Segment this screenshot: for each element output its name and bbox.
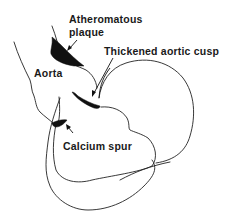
atheromatous-plaque-shape bbox=[51, 37, 84, 66]
calcium-spur-shape bbox=[52, 120, 67, 127]
label-calcium-spur: Calcium spur bbox=[63, 140, 132, 152]
mitral-line bbox=[120, 162, 170, 180]
label-atheromatous-line1: Atheromatous bbox=[69, 13, 143, 25]
cusp-arrow-line bbox=[94, 58, 113, 93]
ventricle-lower-outline bbox=[46, 98, 155, 210]
aortic-valve-diagram: Atheromatous plaque Thickened aortic cus… bbox=[0, 0, 230, 213]
label-thickened-aortic-cusp: Thickened aortic cusp bbox=[104, 45, 219, 57]
label-aorta: Aorta bbox=[34, 67, 62, 79]
diagram-drawing bbox=[0, 0, 230, 213]
thickened-cusp-shape bbox=[72, 92, 100, 108]
cusp-pointer-line2 bbox=[99, 68, 110, 98]
plaque-arrow-line bbox=[70, 40, 77, 48]
aorta-left-wall bbox=[14, 42, 54, 124]
label-atheromatous-line2: plaque bbox=[69, 26, 104, 38]
